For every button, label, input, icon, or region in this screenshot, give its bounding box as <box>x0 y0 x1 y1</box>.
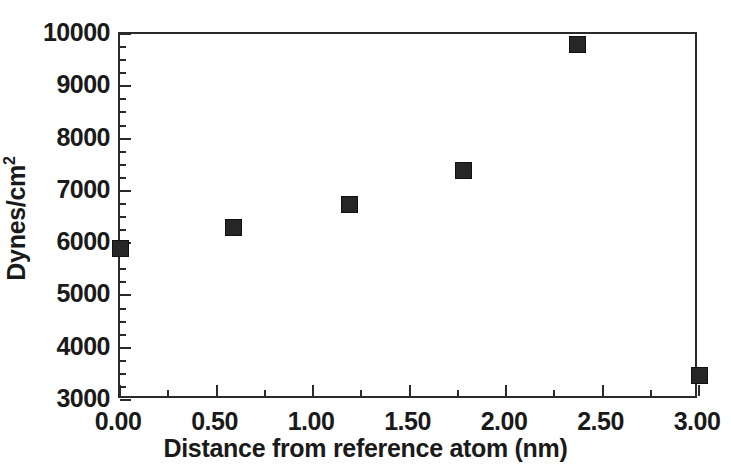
x-axis-major-tick <box>312 385 314 396</box>
y-axis-title-exponent: 2 <box>1 156 18 165</box>
y-axis-minor-tick <box>120 334 126 336</box>
x-axis-major-tick <box>119 385 121 396</box>
x-axis-major-tick <box>602 385 604 396</box>
y-axis-major-tick <box>120 190 131 192</box>
data-point <box>341 196 358 213</box>
x-axis-major-tick <box>409 385 411 396</box>
y-axis-minor-tick <box>120 216 126 218</box>
data-point <box>455 162 472 179</box>
y-axis-minor-tick <box>120 281 126 283</box>
data-point <box>225 219 242 236</box>
y-axis-tick-label: 10000 <box>43 20 110 45</box>
x-axis-major-tick <box>698 385 700 396</box>
data-point <box>691 367 708 384</box>
x-axis-minor-tick <box>264 390 266 396</box>
y-axis-minor-tick <box>120 177 126 179</box>
y-axis-tick-label: 5000 <box>56 281 110 306</box>
y-axis-minor-tick <box>120 111 126 113</box>
plot-frame <box>118 32 697 398</box>
y-axis-tick-label: 6000 <box>56 229 110 254</box>
x-axis-tick-label: 3.00 <box>647 409 731 434</box>
y-axis-minor-tick <box>120 46 126 48</box>
x-axis-minor-tick <box>553 390 555 396</box>
y-axis-tick-label: 4000 <box>56 334 110 359</box>
x-axis-tick-label: 0.50 <box>165 409 265 434</box>
y-axis-major-tick <box>120 33 131 35</box>
x-axis-minor-tick <box>167 390 169 396</box>
x-axis-title: Distance from reference atom (nm) <box>0 434 731 463</box>
plot-area <box>120 34 695 396</box>
data-point <box>569 36 586 53</box>
y-axis-major-tick <box>120 138 131 140</box>
y-axis-tick-label: 9000 <box>56 72 110 97</box>
y-axis-minor-tick <box>120 268 126 270</box>
x-axis-tick-label: 1.00 <box>261 409 361 434</box>
x-axis-major-tick <box>505 385 507 396</box>
y-axis-major-tick <box>120 399 131 401</box>
x-axis-minor-tick <box>457 390 459 396</box>
x-axis-minor-tick <box>360 390 362 396</box>
y-axis-minor-tick <box>120 203 126 205</box>
x-axis-minor-tick <box>650 390 652 396</box>
y-axis-minor-tick <box>120 360 126 362</box>
y-axis-major-tick <box>120 294 131 296</box>
y-axis-title: Dynes/cm2 <box>2 119 31 319</box>
y-axis-minor-tick <box>120 164 126 166</box>
y-axis-minor-tick <box>120 98 126 100</box>
y-axis-major-tick <box>120 347 131 349</box>
y-axis-minor-tick <box>120 373 126 375</box>
y-axis-minor-tick <box>120 229 126 231</box>
x-axis-major-tick <box>216 385 218 396</box>
y-axis-minor-tick <box>120 59 126 61</box>
x-axis-tick-label: 1.50 <box>358 409 458 434</box>
data-point <box>112 240 129 257</box>
y-axis-tick-label: 8000 <box>56 125 110 150</box>
y-axis-minor-tick <box>120 151 126 153</box>
y-axis-tick-label: 7000 <box>56 177 110 202</box>
y-axis-minor-tick <box>120 321 126 323</box>
y-axis-major-tick <box>120 85 131 87</box>
y-axis-minor-tick <box>120 308 126 310</box>
y-axis-minor-tick <box>120 72 126 74</box>
x-axis-tick-label: 2.00 <box>454 409 554 434</box>
x-axis-tick-label: 2.50 <box>551 409 651 434</box>
x-axis-tick-label: 0.00 <box>68 409 168 434</box>
y-axis-title-text: Dynes/cm <box>2 165 30 281</box>
chart-figure: Dynes/cm2 300040005000600070008000900010… <box>0 0 731 476</box>
y-axis-minor-tick <box>120 125 126 127</box>
